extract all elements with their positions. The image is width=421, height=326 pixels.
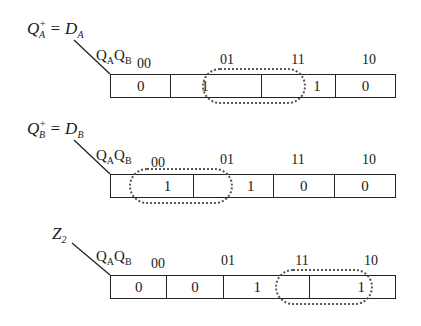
column-header: 01 [208, 253, 248, 269]
function-label: Z2 [52, 224, 66, 245]
grouping-loop [275, 269, 373, 305]
grouping-loop [202, 68, 306, 104]
kmap-cell: 0 [335, 175, 395, 197]
column-header: 01 [207, 152, 247, 168]
column-header: 11 [278, 52, 318, 68]
kmap-cell: 0 [167, 276, 223, 298]
column-header: 10 [349, 52, 389, 68]
variable-label: QAQB [96, 248, 132, 267]
column-header: 10 [349, 152, 389, 168]
function-label: Q+A = DA [27, 18, 84, 40]
column-header: 01 [207, 52, 247, 68]
column-header: 11 [282, 253, 322, 269]
kmap-cell: 0 [336, 75, 395, 97]
column-header: 11 [278, 152, 318, 168]
function-label: Q+B = DB [27, 118, 84, 140]
column-header: 10 [351, 253, 391, 269]
grouping-loop [129, 168, 233, 204]
column-header: 00 [124, 56, 164, 72]
kmap-cell: 0 [111, 276, 167, 298]
kmap-cell: 0 [274, 175, 335, 197]
column-header: 00 [138, 256, 178, 272]
kmap-cell: 0 [111, 75, 171, 97]
variable-label: QAQB [96, 147, 132, 166]
